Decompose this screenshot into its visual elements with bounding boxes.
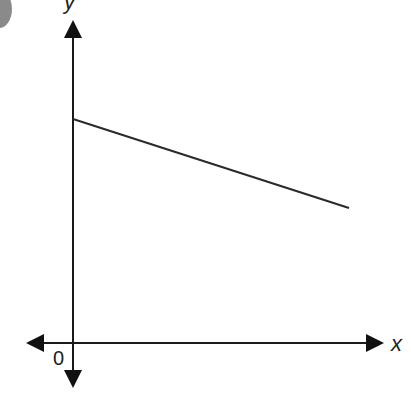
x-axis-right-arrow-icon <box>366 334 384 352</box>
x-axis-label: x <box>390 331 403 356</box>
origin-label: 0 <box>53 347 64 369</box>
y-axis-up-arrow-icon <box>64 20 82 38</box>
x-axis-left-arrow-icon <box>26 334 44 352</box>
data-line <box>73 119 349 208</box>
y-axis-label: y <box>62 0 77 14</box>
chart-canvas: y x 0 <box>0 0 411 404</box>
y-axis-down-arrow-icon <box>64 370 82 388</box>
